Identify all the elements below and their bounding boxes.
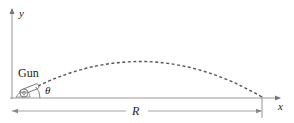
gun-icon [16,83,40,97]
angle-label: θ [45,84,51,96]
trajectory-curve [38,61,262,97]
gun-label: Gun [18,66,39,80]
y-axis: y [12,7,24,99]
range-dimension: R [12,96,262,118]
projectile-diagram: y x Gun θ R [0,0,294,123]
x-axis: x [10,98,283,112]
range-label: R [131,104,140,118]
y-axis-label: y [18,7,24,19]
x-axis-label: x [277,100,283,112]
